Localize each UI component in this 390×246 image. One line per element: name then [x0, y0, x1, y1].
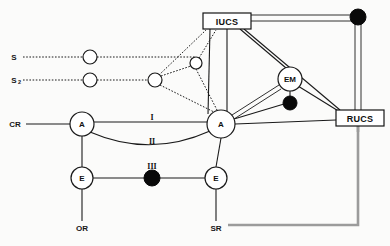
iucs-edges — [208, 29, 340, 114]
edge-numeral-labels: I II III — [147, 113, 156, 171]
edge-em-to-rucs — [298, 86, 340, 112]
label-roman-i: I — [150, 113, 153, 122]
node-e-right-label: E — [213, 174, 219, 183]
node-s-relay-2[interactable] — [83, 73, 97, 87]
node-dot-iii[interactable] — [144, 170, 160, 186]
terminal-labels: S S 2 CR OR SR — [9, 53, 222, 233]
terminal-s2-label: S — [11, 76, 17, 85]
edge-a-to-e-right — [216, 138, 221, 167]
dot-to-rucs-double-line — [355, 24, 361, 110]
edge-junction-to-upper — [161, 66, 191, 76]
edge-dot-em-to-a — [234, 104, 284, 119]
edge-iucs-to-em — [240, 29, 286, 68]
node-e-left-label: E — [79, 174, 85, 183]
edge-rucs-to-sr-gray — [228, 126, 358, 225]
label-roman-iii: III — [147, 162, 156, 171]
iucs-to-dot-double-line — [251, 15, 353, 21]
edge-em-to-a-lower — [234, 89, 281, 119]
edge-upper-to-a-center — [196, 69, 217, 110]
box-iucs-label: IUCS — [216, 17, 239, 27]
gray-feedback-path — [228, 126, 358, 225]
node-dot-top-right[interactable] — [350, 9, 366, 25]
edge-em-to-a-upper — [232, 85, 279, 115]
diagram-canvas: A A EM E E IUCS RUCS S S — [0, 0, 390, 246]
terminal-s-label: S — [11, 53, 17, 62]
bus-line-i — [26, 122, 207, 124]
box-iucs[interactable]: IUCS — [203, 13, 251, 29]
terminal-or-label: OR — [76, 224, 88, 233]
node-em-label: EM — [284, 75, 296, 84]
edge-iucs-to-a-center-left — [208, 29, 210, 114]
node-a-center-label: A — [218, 120, 224, 129]
box-rucs[interactable]: RUCS — [336, 110, 384, 126]
edge-junction-to-a-center — [160, 85, 214, 112]
network-diagram: A A EM E E IUCS RUCS S S — [0, 0, 390, 246]
terminal-sr-label: SR — [210, 224, 221, 233]
terminal-s2-subscript: 2 — [18, 79, 21, 85]
open-nodes: A A EM E E — [70, 50, 302, 189]
label-roman-ii: II — [149, 137, 155, 146]
terminal-cr-label: CR — [9, 120, 21, 129]
node-s-relay-1[interactable] — [83, 50, 97, 64]
filled-nodes — [144, 9, 366, 186]
edge-a-to-rucs — [235, 120, 336, 124]
node-a-left-label: A — [79, 120, 85, 129]
dotted-signal-edges — [23, 30, 217, 112]
box-rucs-label: RUCS — [347, 114, 374, 124]
node-dot-em[interactable] — [283, 96, 297, 110]
node-junction-mid[interactable] — [148, 73, 162, 87]
node-junction-upper[interactable] — [190, 57, 202, 69]
